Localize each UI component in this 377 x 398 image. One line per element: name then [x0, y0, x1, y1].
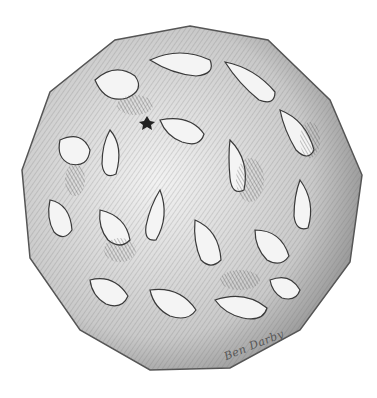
pollen-grain-drawing — [0, 0, 377, 398]
illustration: Ben Darby — [0, 0, 377, 398]
